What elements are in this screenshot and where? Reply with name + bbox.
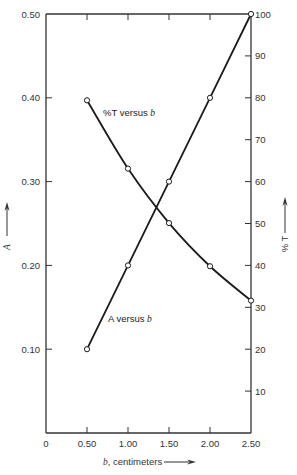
svg-text:% T: % T (279, 235, 290, 252)
y-right-tick-label: 40 (255, 260, 266, 271)
x-tick-label: 2.50 (242, 438, 261, 449)
x-tick-label: 0 (43, 438, 48, 449)
y-left-tick-label: 0.10 (22, 344, 41, 355)
y-right-tick-label: 20 (255, 344, 266, 355)
series-label-a: A versus b (108, 313, 152, 324)
x-tick-label: 0.50 (78, 438, 97, 449)
svg-text:b, centimeters: b, centimeters (103, 456, 162, 467)
y-right-tick-label: 90 (255, 50, 266, 61)
y-right-tick-label: 70 (255, 134, 266, 145)
data-point-marker (248, 298, 253, 303)
y-right-axis-title: % T (279, 197, 290, 252)
data-point-marker (207, 95, 212, 100)
data-point-marker (166, 179, 171, 184)
y-left-tick-label: 0.40 (22, 92, 41, 103)
y-left-tick-label: 0.30 (22, 176, 41, 187)
y-right-tick-label: 50 (255, 218, 266, 229)
x-tick-label: 1.50 (160, 438, 179, 449)
y-right-tick-label: 100 (255, 9, 271, 20)
y-right-tick-label: 60 (255, 176, 266, 187)
data-point-marker (207, 264, 212, 269)
data-point-marker (84, 347, 89, 352)
data-point-marker (166, 220, 171, 225)
y-left-axis-title: A (2, 202, 12, 251)
x-axis-ticks: 00.501.001.502.002.50 (43, 14, 260, 449)
y-right-tick-label: 10 (255, 386, 266, 397)
y-left-axis-ticks: 0.100.200.300.400.50 (22, 9, 53, 355)
data-point-marker (125, 166, 130, 171)
x-tick-label: 1.00 (119, 438, 138, 449)
x-axis-title: b, centimeters (103, 456, 196, 467)
x-tick-label: 2.00 (201, 438, 220, 449)
svg-text:A: A (2, 244, 12, 251)
y-right-tick-label: 80 (255, 92, 266, 103)
y-right-axis-ticks: 102030405060708090100 (245, 9, 271, 397)
y-left-tick-label: 0.50 (22, 9, 41, 20)
series-label-pct-t: %T versus b (103, 107, 155, 118)
data-point-marker (84, 98, 89, 103)
series-line-pct-t (87, 100, 251, 300)
y-left-tick-label: 0.20 (22, 260, 41, 271)
y-right-tick-label: 30 (255, 302, 266, 313)
chart: 00.501.001.502.002.50 0.100.200.300.400.… (0, 0, 297, 475)
data-point-marker (248, 11, 253, 16)
data-point-marker (125, 263, 130, 268)
